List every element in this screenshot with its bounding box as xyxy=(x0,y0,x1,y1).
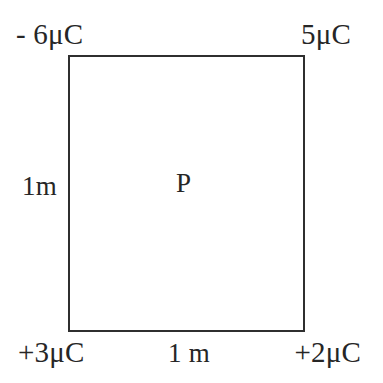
dimension-label-left-side: 1m xyxy=(22,173,57,200)
diagram-canvas: - 6μC 5μC +3μC +2μC 1m 1 m P xyxy=(0,0,383,383)
dimension-label-bottom-side: 1 m xyxy=(168,340,210,367)
center-point-label-p: P xyxy=(176,170,191,197)
charge-label-top-right: 5μC xyxy=(301,20,351,49)
charge-label-bottom-right: +2μC xyxy=(294,338,361,367)
charge-label-top-left: - 6μC xyxy=(16,20,83,49)
charge-label-bottom-left: +3μC xyxy=(18,338,85,367)
